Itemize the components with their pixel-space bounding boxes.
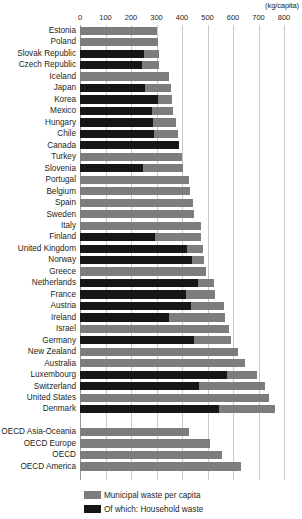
category-label: Iceland — [0, 71, 76, 82]
category-label: Netherlands — [0, 277, 76, 288]
bar-row — [80, 277, 284, 288]
category-label: Estonia — [0, 25, 76, 36]
legend-item-household: Of which: Household waste — [84, 503, 203, 515]
bar-row — [80, 82, 284, 93]
bar-household — [80, 95, 158, 103]
legend-label-household: Of which: Household waste — [104, 505, 203, 514]
category-label: Turkey — [0, 151, 76, 162]
category-label: Israel — [0, 323, 76, 334]
category-label: OECD Asia-Oceania — [0, 426, 76, 437]
bar-row — [80, 94, 284, 105]
bar-household — [80, 50, 144, 58]
units-caption: (kg/capita) — [265, 1, 299, 10]
bar-municipal — [80, 451, 222, 459]
bar-rows — [80, 25, 284, 472]
bar-row — [80, 186, 284, 197]
bar-row — [80, 25, 284, 36]
bar-municipal — [80, 210, 194, 218]
legend-label-municipal: Municipal waste per capita — [104, 491, 200, 500]
bar-row — [80, 36, 284, 47]
x-tick-200: 200 — [125, 13, 138, 22]
bar-municipal — [80, 187, 190, 195]
x-tick-800: 800 — [278, 13, 291, 22]
x-tick-0: 0 — [78, 13, 82, 22]
bar-household — [80, 405, 219, 413]
bar-row — [80, 48, 284, 59]
bar-row — [80, 117, 284, 128]
bar-row — [80, 369, 284, 380]
category-label: New Zealand — [0, 346, 76, 357]
legend-swatch-household-icon — [84, 505, 101, 513]
bar-municipal — [80, 38, 158, 46]
bar-municipal — [80, 199, 193, 207]
bar-row — [80, 140, 284, 151]
bar-row — [80, 461, 284, 472]
bar-household — [80, 302, 191, 310]
category-labels: EstoniaPolandSlovak RepublicCzech Republ… — [0, 25, 76, 472]
bar-household — [80, 130, 154, 138]
category-label: OECD Europe — [0, 438, 76, 449]
bar-row — [80, 335, 284, 346]
plot-area — [80, 25, 284, 480]
x-tick-500: 500 — [201, 13, 214, 22]
bar-household — [80, 245, 187, 253]
category-label: Sweden — [0, 209, 76, 220]
x-tick-100: 100 — [99, 13, 112, 22]
category-label: Spain — [0, 197, 76, 208]
bar-household — [80, 290, 186, 298]
bar-row — [80, 163, 284, 174]
category-label: Italy — [0, 220, 76, 231]
bar-row — [80, 449, 284, 460]
bar-municipal — [80, 348, 238, 356]
category-label: Portugal — [0, 174, 76, 185]
bar-municipal — [80, 27, 157, 35]
category-label: Japan — [0, 82, 76, 93]
bar-household — [80, 313, 169, 321]
category-label: Belgium — [0, 186, 76, 197]
bar-municipal — [80, 267, 206, 275]
bar-household — [80, 382, 199, 390]
x-tick-600: 600 — [227, 13, 240, 22]
bar-household — [80, 256, 192, 264]
category-label: Germany — [0, 335, 76, 346]
bar-row — [80, 151, 284, 162]
bar-household — [80, 371, 227, 379]
bar-row — [80, 381, 284, 392]
category-label: Slovak Republic — [0, 48, 76, 59]
category-label: Slovenia — [0, 163, 76, 174]
bar-row — [80, 392, 284, 403]
bar-municipal — [80, 176, 189, 184]
bar-row-spacer — [80, 415, 284, 426]
bar-row — [80, 438, 284, 449]
category-label: United States — [0, 392, 76, 403]
bar-row — [80, 300, 284, 311]
bar-row — [80, 289, 284, 300]
bar-row — [80, 403, 284, 414]
bar-row — [80, 209, 284, 220]
bar-row — [80, 358, 284, 369]
gridline-800 — [284, 25, 285, 480]
chart-legend: Municipal waste per capita Of which: Hou… — [84, 489, 203, 517]
x-tick-400: 400 — [176, 13, 189, 22]
category-label: Australia — [0, 358, 76, 369]
category-label: Finland — [0, 231, 76, 242]
category-label: Canada — [0, 140, 76, 151]
category-label: France — [0, 289, 76, 300]
bar-household — [80, 107, 152, 115]
bar-municipal — [80, 153, 182, 161]
bar-municipal — [80, 359, 245, 367]
category-label: Hungary — [0, 117, 76, 128]
bar-row — [80, 128, 284, 139]
x-tick-700: 700 — [252, 13, 265, 22]
category-label: Poland — [0, 36, 76, 47]
x-axis-tick-labels: 0100200300400500600700800 — [0, 13, 302, 25]
bar-household — [80, 164, 143, 172]
bar-row — [80, 71, 284, 82]
category-label: Korea — [0, 94, 76, 105]
category-label: Denmark — [0, 403, 76, 414]
category-label: Ireland — [0, 312, 76, 323]
category-label: Chile — [0, 128, 76, 139]
category-label: Mexico — [0, 105, 76, 116]
bar-row — [80, 323, 284, 334]
category-label: Luxembourg — [0, 369, 76, 380]
